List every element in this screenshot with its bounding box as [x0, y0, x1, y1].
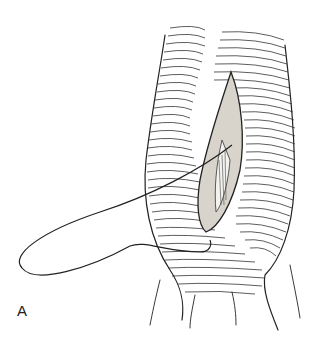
panel-label: A: [17, 302, 27, 319]
surgical-illustration: A: [0, 0, 319, 345]
illustration-drawing: [0, 0, 319, 345]
tissue-left-edge: [145, 35, 183, 320]
incision: [198, 72, 242, 232]
